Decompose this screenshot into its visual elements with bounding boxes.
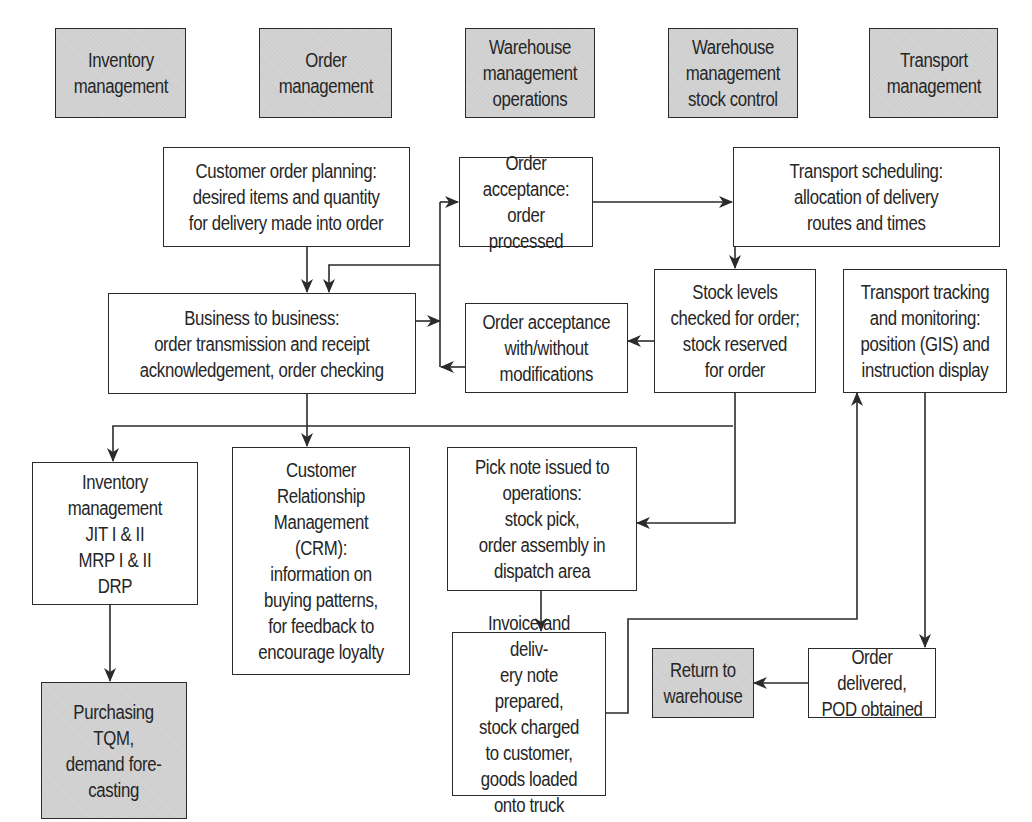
header-warehouse-operations: Warehouse management operations	[465, 28, 595, 118]
node-label: Stock levels checked for order; stock re…	[671, 279, 800, 383]
node-label: Return to warehouse	[664, 657, 743, 709]
header-inventory-management: Inventory management	[55, 28, 186, 118]
node-return-to-warehouse: Return to warehouse	[652, 648, 754, 718]
header-label: Transport management	[886, 47, 980, 99]
node-invoice-delivery-note: Invoice and deliv- ery note prepared, st…	[452, 632, 606, 796]
node-order-delivered: Order delivered, POD obtained	[808, 648, 936, 718]
header-label: Order management	[278, 47, 372, 99]
node-label: Pick note issued to operations: stock pi…	[475, 454, 609, 584]
header-order-management: Order management	[259, 28, 392, 118]
edge-b2b-to-inventory	[113, 426, 733, 461]
node-label: Order acceptance: order processed	[473, 150, 580, 254]
header-warehouse-stock-control: Warehouse management stock control	[668, 28, 798, 118]
node-label: Purchasing TQM, demand fore- casting	[66, 699, 162, 803]
node-inventory-jit-mrp-drp: Inventory management JIT I & II MRP I & …	[32, 462, 198, 605]
node-label: Transport tracking and monitoring: posit…	[861, 279, 990, 383]
node-order-acceptance-modifications: Order acceptance with/without modificati…	[465, 303, 628, 393]
node-transport-tracking: Transport tracking and monitoring: posit…	[843, 269, 1007, 393]
supply-chain-flowchart: Inventory management Order management Wa…	[0, 0, 1032, 822]
node-label: Transport scheduling: allocation of deli…	[790, 158, 943, 236]
header-label: Warehouse management operations	[483, 34, 577, 112]
header-label: Warehouse management stock control	[686, 34, 780, 112]
node-label: Invoice and deliv- ery note prepared, st…	[467, 610, 591, 818]
node-label: Order acceptance with/without modificati…	[483, 309, 611, 387]
node-business-to-business: Business to business: order transmission…	[108, 293, 416, 394]
header-transport-management: Transport management	[869, 28, 998, 118]
edge-stock-to-pick	[637, 392, 735, 523]
node-label: Business to business: order transmission…	[140, 305, 384, 383]
node-label: Customer Relationship Management (CRM): …	[258, 457, 384, 665]
node-label: Order delivered, POD obtained	[821, 644, 922, 722]
node-stock-levels: Stock levels checked for order; stock re…	[654, 269, 816, 393]
node-purchasing: Purchasing TQM, demand fore- casting	[41, 682, 187, 819]
header-label: Inventory management	[73, 47, 167, 99]
node-label: Customer order planning: desired items a…	[189, 158, 384, 236]
edge-acceptance-to-b2b	[329, 265, 440, 292]
node-label: Inventory management JIT I & II MRP I & …	[68, 469, 162, 599]
node-order-acceptance-processed: Order acceptance: order processed	[459, 157, 593, 247]
node-pick-note: Pick note issued to operations: stock pi…	[447, 447, 637, 591]
node-crm: Customer Relationship Management (CRM): …	[232, 447, 410, 675]
node-customer-order-planning: Customer order planning: desired items a…	[163, 147, 410, 247]
node-transport-scheduling: Transport scheduling: allocation of deli…	[733, 147, 1000, 247]
